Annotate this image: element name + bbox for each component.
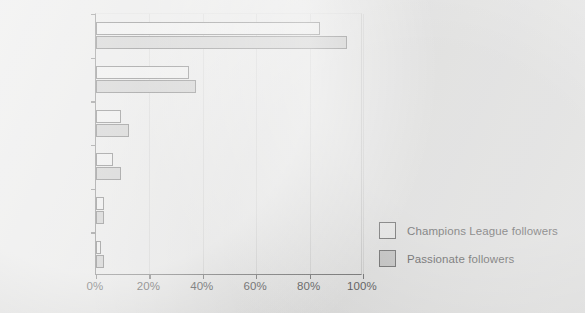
legend-swatch-icon (379, 250, 396, 267)
x-tick (256, 274, 257, 279)
bar-internet-series-2 (96, 167, 121, 180)
chart-legend: Champions League followers Passionate fo… (379, 222, 575, 278)
bar-newspapers-series-1 (96, 66, 189, 79)
x-tick (149, 274, 150, 279)
bar-spectating-series-2 (96, 211, 104, 224)
y-tick (91, 101, 96, 102)
gridline (363, 14, 364, 274)
x-tick-label: 20% (137, 280, 160, 292)
bar-tv-series-1 (96, 22, 320, 35)
bar-radio-series-1 (96, 110, 121, 123)
y-tick (91, 232, 96, 233)
horizontal-bar-chart: 0%20%40%60%80%100% TVNewspapersRadioInte… (0, 0, 585, 313)
bar-tv-series-2 (96, 36, 347, 49)
x-tick-label: 60% (244, 280, 267, 292)
gridline (256, 14, 257, 274)
bar-spectating-series-1 (96, 197, 104, 210)
bar-magazines-series-1 (96, 241, 101, 254)
x-tick-label: 80% (297, 280, 320, 292)
gridline (203, 14, 204, 274)
y-tick (91, 189, 96, 190)
y-tick (91, 145, 96, 146)
legend-swatch-icon (379, 222, 396, 239)
y-tick (91, 58, 96, 59)
bar-magazines-series-2 (96, 255, 104, 268)
gridline (149, 14, 150, 274)
x-tick-label: 100% (347, 280, 377, 292)
x-tick (203, 274, 204, 279)
x-tick (310, 274, 311, 279)
x-tick (96, 274, 97, 279)
bar-newspapers-series-2 (96, 80, 196, 93)
x-tick-label: 0% (87, 280, 104, 292)
legend-label: Passionate followers (407, 253, 514, 265)
legend-item-champions-league-followers: Champions League followers (379, 222, 575, 239)
x-tick-label: 40% (190, 280, 213, 292)
y-tick (91, 14, 96, 15)
bar-radio-series-2 (96, 124, 129, 137)
gridline (310, 14, 311, 274)
legend-label: Champions League followers (407, 225, 558, 237)
legend-item-passionate-followers: Passionate followers (379, 250, 575, 267)
bar-internet-series-1 (96, 153, 113, 166)
x-tick (363, 274, 364, 279)
plot-area (95, 13, 362, 275)
